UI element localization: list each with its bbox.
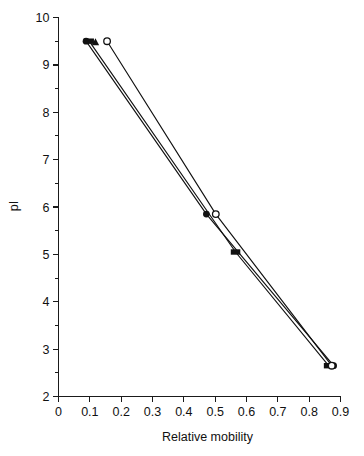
y-tick-label: 2 xyxy=(43,390,50,404)
chart-figure: 2345678910 00.10.20.30.40.50.60.70.80.9 … xyxy=(0,0,364,456)
y-tick-label: 3 xyxy=(43,343,50,357)
x-tick-label: 0.2 xyxy=(112,405,129,419)
series-line xyxy=(107,41,332,366)
x-tick-label: 0.9 xyxy=(332,405,349,419)
series-lines xyxy=(86,41,334,366)
marker-open-circle xyxy=(328,362,335,369)
y-axis-title: pI xyxy=(7,201,21,211)
x-tick-label: 0.3 xyxy=(144,405,161,419)
marker-filled-square xyxy=(231,249,241,254)
y-tick-label: 10 xyxy=(36,11,50,25)
y-axis-ticks xyxy=(53,18,59,397)
x-tick-label: 0.6 xyxy=(238,405,255,419)
x-tick-label: 0.8 xyxy=(300,405,317,419)
x-axis-tick-labels: 00.10.20.30.40.50.60.70.80.9 xyxy=(55,405,349,419)
scatter-line-plot: 2345678910 00.10.20.30.40.50.60.70.80.9 … xyxy=(0,0,364,456)
y-tick-label: 9 xyxy=(43,58,50,72)
x-tick-label: 0.4 xyxy=(175,405,192,419)
marker-filled-square xyxy=(84,38,94,43)
marker-filled-circle xyxy=(203,211,210,218)
y-axis-tick-labels: 2345678910 xyxy=(36,11,50,404)
marker-open-circle xyxy=(104,38,111,45)
y-tick-label: 5 xyxy=(43,248,50,262)
x-tick-label: 0.1 xyxy=(81,405,98,419)
x-axis-ticks xyxy=(59,397,341,403)
x-axis-title: Relative mobility xyxy=(162,430,254,444)
y-tick-label: 7 xyxy=(43,153,50,167)
marker-open-circle xyxy=(212,211,219,218)
x-tick-label: 0.7 xyxy=(269,405,286,419)
y-tick-label: 8 xyxy=(43,106,50,120)
x-tick-label: 0 xyxy=(55,405,62,419)
y-tick-label: 6 xyxy=(43,201,50,215)
y-tick-label: 4 xyxy=(43,295,50,309)
x-tick-label: 0.5 xyxy=(206,405,223,419)
